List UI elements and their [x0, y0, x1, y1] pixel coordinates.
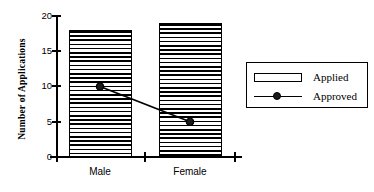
legend-line-swatch-icon — [247, 87, 309, 105]
legend-item-applied: Applied — [247, 68, 367, 86]
legend-item-approved: Approved — [247, 87, 367, 105]
chart-figure: Number of Applications 20 15 10 5 0 Male… — [0, 0, 374, 192]
y-axis-tick-labels: 20 15 10 5 0 — [28, 0, 52, 192]
legend-label-approved: Approved — [309, 90, 357, 102]
x-tick-mark-middle — [144, 152, 146, 162]
y-tick-mark-5 — [52, 121, 61, 123]
chart-legend: Applied Approved — [246, 62, 368, 108]
legend-bar-swatch-icon — [247, 68, 309, 86]
bar-applied-male — [69, 30, 132, 157]
y-tick-mark-15 — [52, 50, 61, 52]
x-tick-mark-left — [56, 152, 58, 162]
y-tick-label-15: 15 — [30, 46, 52, 56]
y-axis-title: Number of Applications — [17, 19, 27, 159]
y-tick-label-10: 10 — [30, 81, 52, 91]
y-tick-label-0: 0 — [30, 152, 52, 162]
bar-applied-female — [159, 23, 222, 157]
y-tick-label-20: 20 — [30, 11, 52, 21]
x-label-male: Male — [60, 166, 140, 177]
y-tick-mark-10 — [52, 85, 61, 87]
legend-label-applied: Applied — [309, 71, 348, 83]
y-tick-label-5: 5 — [30, 117, 52, 127]
y-tick-mark-20 — [52, 15, 61, 17]
x-tick-mark-right — [234, 152, 236, 162]
x-label-female: Female — [150, 166, 230, 177]
